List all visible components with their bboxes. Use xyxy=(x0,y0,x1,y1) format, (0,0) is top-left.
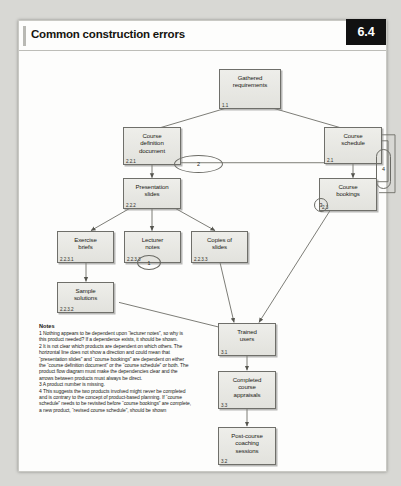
title-accent-bar xyxy=(23,26,26,46)
diagram-canvas: Gatheredrequirements 1.1 Coursedefinitio… xyxy=(19,51,386,471)
page-header: Common construction errors 6.4 xyxy=(19,21,386,51)
node-number: 3.1 xyxy=(221,350,227,355)
node-number: 3.2 xyxy=(221,459,227,464)
node-post-course-coaching-sessions[interactable]: Post-coursecoachingsessions 3.2 xyxy=(218,427,276,465)
node-number: 2.2.1 xyxy=(126,159,136,164)
node-sample-solutions[interactable]: Samplesolutions 2.2.3.2 xyxy=(57,282,114,313)
node-exercise-briefs[interactable]: Exercisebriefs 2.2.3.1 xyxy=(57,231,114,263)
node-label: Courseschedule xyxy=(327,132,379,147)
node-number: 2.1 xyxy=(327,158,333,163)
node-label: Samplesolutions xyxy=(60,287,111,302)
node-number: 2.2.3.3 xyxy=(194,257,207,262)
node-label: Exercisebriefs xyxy=(60,236,111,251)
node-gathered-requirements[interactable]: Gatheredrequirements 1.1 xyxy=(219,69,281,109)
node-completed-course-appraisals[interactable]: Completedcourseappraisals 3.3 xyxy=(218,371,276,409)
node-number: 2.2.3.2 xyxy=(60,307,73,312)
node-number: 2.2.2 xyxy=(126,203,136,208)
node-presentation-slides[interactable]: Presentationslides 2.2.2 xyxy=(123,178,181,209)
annotation-marker-1[interactable]: 1 xyxy=(137,255,161,270)
node-label: Copies ofslides xyxy=(194,236,245,251)
node-label: Gatheredrequirements xyxy=(222,74,278,89)
node-number: 3.3 xyxy=(221,403,227,408)
page-sheet: Common construction errors 6.4 xyxy=(18,20,387,472)
annotation-marker-2[interactable]: 2 xyxy=(174,155,223,173)
chapter-badge: 6.4 xyxy=(346,19,386,45)
node-label: Post-coursecoachingsessions xyxy=(221,432,273,454)
node-course-schedule[interactable]: Courseschedule 2.1 xyxy=(324,127,382,164)
annotation-marker-4[interactable]: 4 xyxy=(376,149,391,189)
note-item: 2 It is not clear which products are dep… xyxy=(39,343,191,381)
notes-block: Notes 1 Nothing appears to be dependent … xyxy=(39,323,191,413)
note-item: 4 This suggests the two products involve… xyxy=(39,388,191,414)
node-label: Coursebookings xyxy=(322,183,374,198)
node-number: 2.2.3.1 xyxy=(60,257,73,262)
node-label: Completedcourseappraisals xyxy=(221,376,273,398)
node-copies-of-slides[interactable]: Copies ofslides 2.2.3.3 xyxy=(191,231,248,263)
node-label: Lecturernotes xyxy=(127,236,178,251)
node-label: Presentationslides xyxy=(126,183,178,198)
notes-title: Notes xyxy=(39,323,191,329)
node-trained-users[interactable]: Trainedusers 3.1 xyxy=(218,323,276,356)
node-label: Trainedusers xyxy=(221,328,273,343)
node-label: Coursedefinitiondocument xyxy=(126,132,178,154)
page-title: Common construction errors xyxy=(31,28,185,40)
page-inner: Common construction errors 6.4 xyxy=(18,20,387,472)
annotation-marker-3[interactable]: 3 xyxy=(314,198,328,212)
node-number: 1.1 xyxy=(222,103,228,108)
node-course-definition-document[interactable]: Coursedefinitiondocument 2.2.1 xyxy=(123,127,181,165)
note-item: 1 Nothing appears to be dependent upon “… xyxy=(39,330,191,343)
